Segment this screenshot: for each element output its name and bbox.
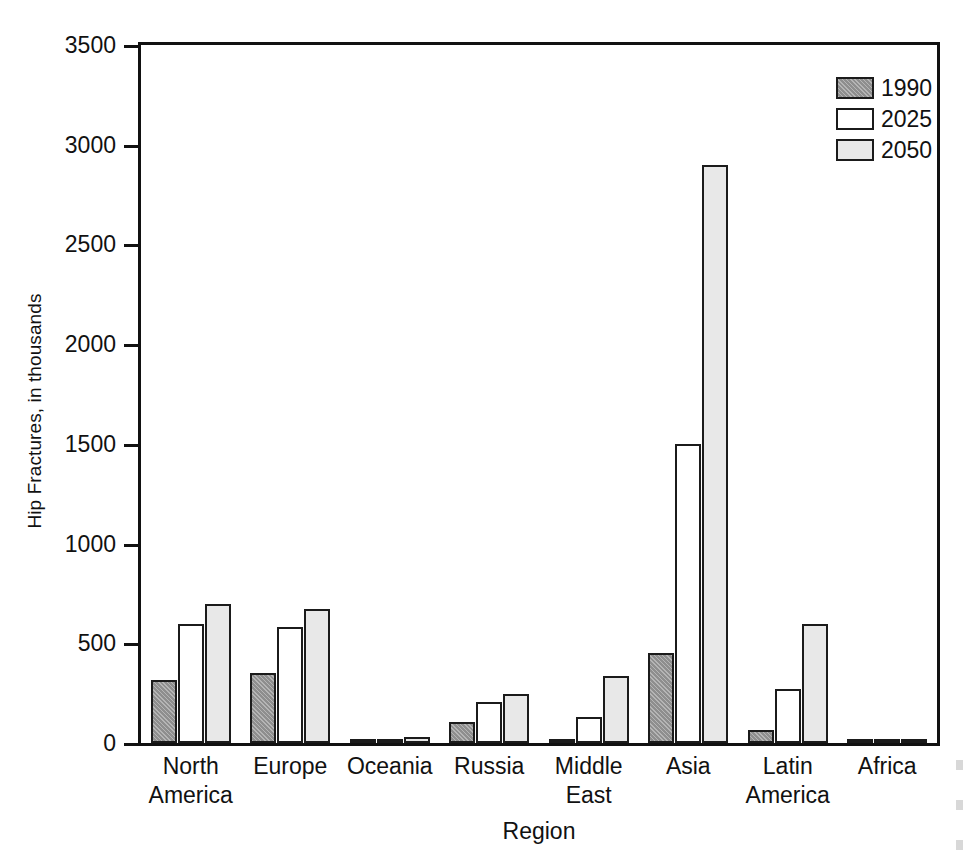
x-axis-tick-label-line: America xyxy=(121,781,261,810)
x-axis-tick-label-line: America xyxy=(718,781,858,810)
bar xyxy=(901,739,927,743)
bar xyxy=(847,739,873,743)
y-axis-tick-mark xyxy=(124,444,139,447)
y-axis-tick-label: 1500 xyxy=(44,430,116,457)
x-axis-tick-label-line: East xyxy=(519,781,659,810)
bar xyxy=(476,702,502,743)
y-axis-tick-mark xyxy=(124,643,139,646)
y-axis-tick-mark xyxy=(124,145,139,148)
bar-group xyxy=(151,45,231,743)
legend-swatch-1990 xyxy=(836,77,874,99)
bar-group xyxy=(449,45,529,743)
y-axis-tick-labels: 0500100015002000250030003500 xyxy=(40,0,116,865)
legend-item: 1990 xyxy=(836,74,954,102)
legend-swatch-2050 xyxy=(836,139,874,161)
bar xyxy=(205,604,231,743)
page-edge-mark xyxy=(956,840,963,850)
x-axis-tick-label-line: Africa xyxy=(818,752,958,781)
bar-group xyxy=(748,45,828,743)
bar-group xyxy=(250,45,330,743)
bar xyxy=(250,673,276,743)
bar xyxy=(702,165,728,743)
y-axis-tick-mark xyxy=(124,45,139,48)
y-axis-tick-label: 500 xyxy=(44,630,116,657)
bar xyxy=(648,653,674,743)
x-axis-title: Region xyxy=(138,818,940,845)
legend-item: 2050 xyxy=(836,136,954,164)
bar xyxy=(549,739,575,743)
legend-label: 2050 xyxy=(881,137,932,164)
y-axis-tick-label: 2500 xyxy=(44,231,116,258)
bar xyxy=(874,739,900,743)
y-axis-tick-label: 3500 xyxy=(44,32,116,59)
legend-label: 2025 xyxy=(881,106,932,133)
y-axis-tick-mark xyxy=(124,544,139,547)
bar xyxy=(748,730,774,743)
bar xyxy=(775,689,801,743)
page-edge-mark xyxy=(956,800,963,810)
bar xyxy=(404,737,430,743)
bar xyxy=(350,739,376,743)
legend-item: 2025 xyxy=(836,105,954,133)
y-axis-tick-label: 1000 xyxy=(44,530,116,557)
y-axis-tick-mark xyxy=(124,344,139,347)
legend-label: 1990 xyxy=(881,75,932,102)
bars-layer xyxy=(141,45,937,743)
y-axis-tick-label: 2000 xyxy=(44,331,116,358)
bar xyxy=(449,722,475,743)
bar-group xyxy=(350,45,430,743)
bar xyxy=(576,717,602,743)
bar xyxy=(377,739,403,743)
bar xyxy=(675,444,701,743)
y-axis-tick-mark xyxy=(124,743,139,746)
bar-chart: Hip Fractures, in thousands 050010001500… xyxy=(0,0,967,865)
x-axis-tick-labels: NorthAmericaEuropeOceaniaRussiaMiddleEas… xyxy=(141,752,937,822)
bar xyxy=(304,609,330,743)
bar xyxy=(503,694,529,743)
bar-group xyxy=(549,45,629,743)
legend: 199020252050 xyxy=(836,74,954,167)
y-axis-tick-label: 3000 xyxy=(44,131,116,158)
y-axis-tick-label: 0 xyxy=(44,730,116,757)
bar xyxy=(178,624,204,743)
bar-group xyxy=(648,45,728,743)
legend-swatch-2025 xyxy=(836,108,874,130)
y-axis-tick-mark xyxy=(124,244,139,247)
bar xyxy=(802,624,828,743)
page-edge-mark xyxy=(956,760,963,770)
x-axis-tick-label: Africa xyxy=(818,752,958,781)
bar xyxy=(277,627,303,743)
bar xyxy=(603,676,629,743)
bar xyxy=(151,680,177,743)
